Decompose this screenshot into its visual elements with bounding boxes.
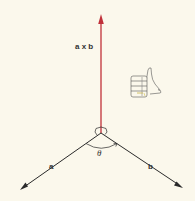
theta-label: θ (97, 148, 101, 158)
arrowhead-icon (20, 183, 28, 191)
diagram-canvas: a x b a b θ (0, 0, 195, 201)
cross-product-label: a x b (75, 42, 93, 51)
right-hand-icon (131, 68, 161, 97)
vector-b (101, 133, 183, 188)
vector-a (20, 133, 101, 190)
arrowhead-icon (98, 14, 104, 24)
angle-arc (86, 143, 117, 148)
vector-a-label: a (49, 162, 53, 171)
diagram-svg (0, 0, 195, 201)
vector-b-label: b (148, 162, 153, 171)
cross-product-vector (98, 14, 104, 133)
